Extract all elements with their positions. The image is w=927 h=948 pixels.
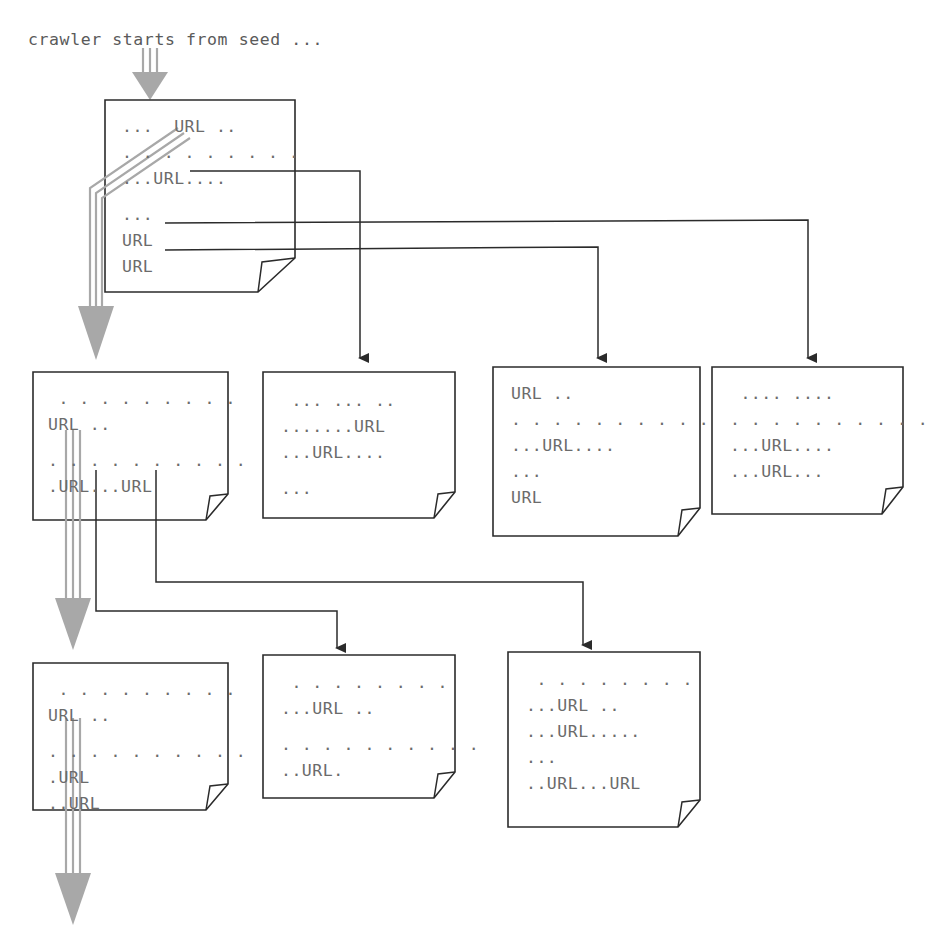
diagram-canvas [0, 0, 927, 948]
level2-document-2-shape[interactable] [263, 372, 455, 518]
level2-document-3-shape[interactable] [493, 367, 700, 536]
level3-document-1-shape[interactable] [33, 663, 228, 810]
crawler-diagram: crawler starts from seed ... [0, 0, 927, 948]
crawler-path-entry [132, 48, 168, 100]
level2-document-1-shape[interactable] [33, 372, 228, 520]
level2-document-4-shape[interactable] [712, 367, 903, 514]
level3-document-2-shape[interactable] [263, 655, 455, 798]
level3-document-3-shape[interactable] [508, 652, 700, 827]
seed-document-shape[interactable] [105, 100, 295, 292]
